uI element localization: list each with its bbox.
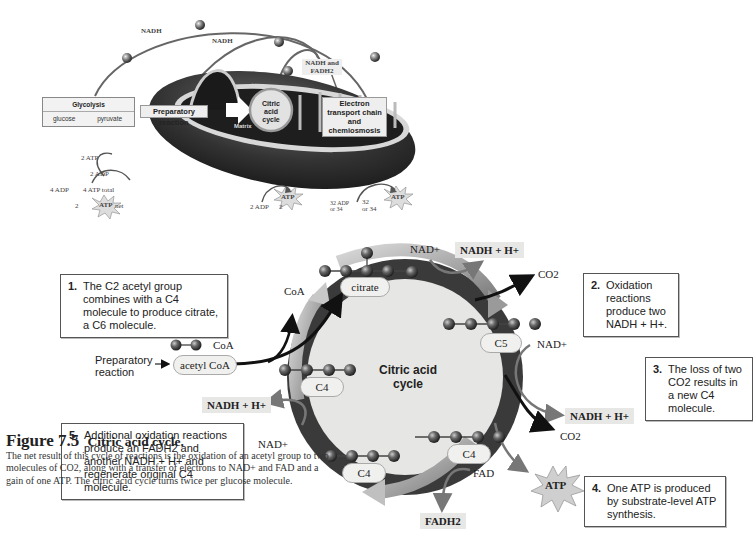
glycolysis-net-label: net bbox=[115, 202, 124, 210]
nad-left-label: NAD+ bbox=[258, 438, 288, 450]
citric-acid-cycle-label: Citric acid cycle bbox=[256, 100, 286, 124]
co2-right-label: CO2 bbox=[560, 430, 581, 442]
etc-atp-burst: ATP bbox=[391, 193, 404, 201]
overview-diagram: NADH NADH NADH and FADH2 Glycolysis gluc… bbox=[0, 0, 753, 225]
acetyl-coa-label: acetyl CoA bbox=[173, 355, 237, 375]
glycolysis-4atp-total: 4 ATP total bbox=[83, 186, 114, 194]
nadh-right-box: NADH + H+ bbox=[565, 408, 634, 424]
c5-label: C5 bbox=[480, 333, 522, 353]
c4-bottom-label: C4 bbox=[342, 463, 386, 483]
nadh-arc-label-2: NADH bbox=[212, 37, 233, 45]
figure-caption-title: Figure 7.5 Citric acid cycle. bbox=[6, 431, 184, 451]
nadh-left-box: NADH + H+ bbox=[202, 397, 271, 413]
fad-label: FAD bbox=[473, 467, 494, 479]
glycolysis-net-count: 2 bbox=[75, 202, 79, 210]
co2-top-label: CO2 bbox=[538, 268, 559, 280]
glycolysis-4adp: 4 ADP bbox=[50, 186, 69, 194]
step-4-box: 4. One ATP is produced by substrate-leve… bbox=[584, 476, 726, 527]
citrate-label: citrate bbox=[340, 277, 390, 297]
electron-transport-label: Electron transport chain and chemiosmosi… bbox=[322, 97, 387, 137]
figure-caption-body: The net result of this cycle of reaction… bbox=[6, 450, 334, 487]
nadh-fadh2-label: NADH and FADH2 bbox=[302, 59, 342, 75]
figure-title: Citric acid cycle. bbox=[88, 434, 184, 449]
c4-left-label: C4 bbox=[300, 377, 344, 397]
step-1-box: 1. The C2 acetyl group combines with a C… bbox=[60, 274, 228, 338]
matrix-label: Matrix bbox=[234, 123, 252, 129]
glycolysis-2atp-input: 2 ATP bbox=[81, 154, 98, 162]
cycle-center-title: Citric acid cycle bbox=[363, 363, 453, 391]
step-3-box: 3. The loss of two CO2 results in a new … bbox=[645, 357, 753, 421]
nadh-top-box: NADH + H+ bbox=[455, 242, 524, 258]
cycle-2adp: 2 ADP bbox=[250, 203, 269, 211]
glycolysis-reaction: glucose pyruvate bbox=[43, 112, 134, 126]
step-2-box: 2. Oxidation reactions produce two NADH … bbox=[583, 273, 679, 337]
fadh2-box: FADH2 bbox=[420, 513, 466, 529]
c4-right-label: C4 bbox=[447, 444, 491, 464]
preparatory-reaction-text: Preparatory reaction bbox=[95, 354, 152, 378]
glycolysis-atp-burst: ATP bbox=[99, 201, 112, 209]
nad-top-label: NAD+ bbox=[410, 243, 440, 255]
glycolysis-title: Glycolysis bbox=[43, 98, 134, 112]
cycle-atp-count: 2 bbox=[279, 203, 283, 211]
nad-right-label: NAD+ bbox=[537, 338, 567, 350]
figure-number: Figure 7.5 bbox=[6, 431, 79, 450]
atp-burst-label: ATP bbox=[545, 479, 566, 491]
etc-adp: 32 ADP or 34 bbox=[330, 200, 349, 212]
glycolysis-box: Glycolysis glucose pyruvate bbox=[42, 97, 135, 127]
glycolysis-2adp-output: 2 ADP bbox=[90, 170, 109, 178]
coa-released-label: CoA bbox=[284, 285, 305, 297]
cycle-atp-burst: ATP bbox=[281, 193, 294, 201]
nadh-arc-label-1: NADH bbox=[141, 27, 162, 35]
preparatory-reaction-label: Preparatory reaction bbox=[140, 105, 208, 118]
etc-atp-count: 32 or 34 bbox=[362, 199, 377, 213]
coa-attached-label: CoA bbox=[213, 339, 234, 351]
